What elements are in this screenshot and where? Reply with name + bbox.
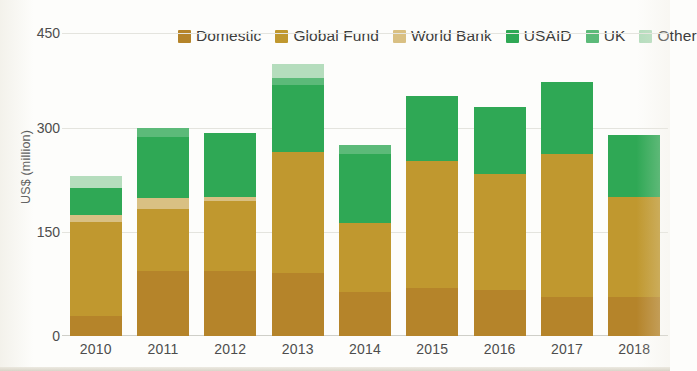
bar-segment-global-fund[interactable] [474,174,526,289]
bar-segment-world-bank[interactable] [70,215,122,222]
bar-segment-domestic[interactable] [474,290,526,336]
bar-slot [62,20,129,336]
stacked-bar[interactable] [204,133,256,336]
bar-segment-global-fund[interactable] [204,201,256,271]
bar-segment-global-fund[interactable] [541,154,593,297]
stacked-bar[interactable] [70,176,122,336]
bar-segment-uk[interactable] [137,128,189,137]
bar-segment-other[interactable] [70,176,122,188]
bar-segment-usaid[interactable] [541,82,593,154]
x-tick-2010: 2010 [62,341,129,367]
bar-segment-global-fund[interactable] [272,152,324,273]
bar-segment-domestic[interactable] [70,316,122,336]
plot-area [62,20,668,336]
bar-segment-other[interactable] [272,64,324,79]
x-tick-2012: 2012 [197,341,264,367]
stacked-bar[interactable] [272,64,324,336]
x-tick-2017: 2017 [533,341,600,367]
bar-segment-global-fund[interactable] [406,161,458,289]
stacked-bar[interactable] [474,107,526,336]
bar-segment-usaid[interactable] [272,85,324,152]
bar-segment-usaid[interactable] [406,96,458,161]
stacked-bar[interactable] [406,96,458,336]
bar-group [62,20,668,336]
bar-segment-usaid[interactable] [339,154,391,223]
x-tick-2016: 2016 [466,341,533,367]
stacked-bar[interactable] [541,82,593,336]
bar-segment-world-bank[interactable] [137,198,189,209]
x-tick-2018: 2018 [601,341,668,367]
stacked-bar[interactable] [137,128,189,336]
bar-segment-domestic[interactable] [272,273,324,336]
bar-segment-usaid[interactable] [70,188,122,215]
bar-slot [399,20,466,336]
bar-slot [466,20,533,336]
bar-segment-global-fund[interactable] [339,223,391,293]
bar-segment-uk[interactable] [339,145,391,153]
bar-segment-global-fund[interactable] [608,197,660,297]
y-tick-450: 450 [0,25,60,41]
x-tick-2015: 2015 [399,341,466,367]
stacked-bar[interactable] [339,145,391,336]
bar-segment-domestic[interactable] [608,297,660,336]
bar-slot [601,20,668,336]
y-tick-0: 0 [0,328,60,344]
x-tick-2014: 2014 [331,341,398,367]
bar-segment-usaid[interactable] [474,107,526,174]
page-bottom-rule [0,367,670,371]
bar-slot [331,20,398,336]
bar-segment-global-fund[interactable] [70,222,122,316]
bar-segment-domestic[interactable] [339,292,391,336]
y-axis-title: US$ (million) [19,107,33,227]
bar-slot [264,20,331,336]
stacked-bar[interactable] [608,135,660,336]
bar-segment-usaid[interactable] [137,137,189,197]
bar-segment-domestic[interactable] [406,288,458,336]
bar-segment-usaid[interactable] [204,133,256,197]
bar-slot [533,20,600,336]
bar-slot [129,20,196,336]
bar-segment-domestic[interactable] [204,271,256,336]
bar-segment-global-fund[interactable] [137,209,189,271]
x-tick-2013: 2013 [264,341,331,367]
bar-segment-uk[interactable] [272,78,324,85]
bar-segment-usaid[interactable] [608,135,660,197]
bar-slot [197,20,264,336]
x-tick-2011: 2011 [129,341,196,367]
x-axis-tick-labels: 201020112012201320142015201620172018 [62,341,668,367]
bar-segment-domestic[interactable] [541,297,593,336]
bar-segment-domestic[interactable] [137,271,189,336]
